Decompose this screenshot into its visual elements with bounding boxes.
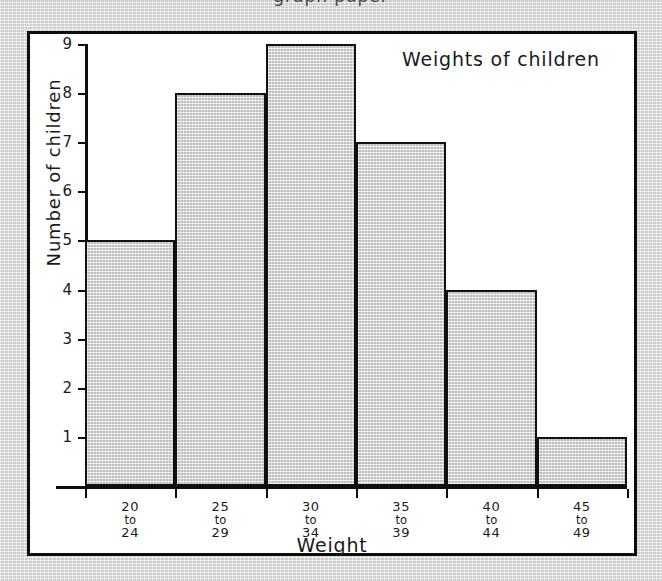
x-axis-tick [85, 489, 87, 498]
x-cat-low: 30 [266, 500, 356, 514]
x-axis-tick [356, 489, 358, 498]
x-axis-tick [446, 489, 448, 498]
x-cat-low: 35 [356, 500, 446, 514]
y-axis-tick-label: 7 [44, 133, 72, 151]
bar [537, 437, 627, 486]
y-axis-tick-label: 5 [44, 231, 72, 249]
x-cat-low: 20 [85, 500, 175, 514]
x-cat-low: 45 [537, 500, 627, 514]
x-cat-low: 25 [175, 500, 265, 514]
x-axis-tick [266, 489, 268, 498]
plot-area [85, 44, 627, 486]
bar [175, 93, 265, 486]
bar [446, 290, 536, 486]
bar [356, 142, 446, 486]
x-axis-tick [627, 489, 629, 498]
x-cat-low: 40 [446, 500, 536, 514]
bar [85, 240, 175, 486]
y-axis-tick-label: 3 [44, 330, 72, 348]
bar [266, 44, 356, 486]
y-axis-tick-label: 8 [44, 84, 72, 102]
y-axis-tick-label: 6 [44, 182, 72, 200]
x-axis-tick [537, 489, 539, 498]
x-axis-title: Weight [30, 534, 634, 556]
y-axis-tick-label: 9 [44, 35, 72, 53]
y-axis-tick-label: 2 [44, 379, 72, 397]
y-axis-tick-label: 4 [44, 281, 72, 299]
chart-area: Weights of children Number of children 1… [30, 34, 634, 553]
clipped-header-text: graph paper [0, 0, 662, 6]
figure-frame: Weights of children Number of children 1… [27, 31, 637, 556]
x-axis-spine [56, 486, 627, 489]
x-axis-tick [175, 489, 177, 498]
y-axis-tick-label: 1 [44, 428, 72, 446]
